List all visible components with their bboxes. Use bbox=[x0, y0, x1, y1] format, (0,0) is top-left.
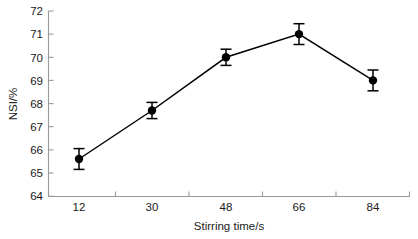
data-point-marker bbox=[295, 30, 303, 38]
y-tick-label: 72 bbox=[30, 5, 43, 17]
x-tick-label: 30 bbox=[146, 201, 159, 213]
x-tick-label: 84 bbox=[367, 201, 380, 213]
x-tick-label: 12 bbox=[73, 201, 86, 213]
y-tick-label: 68 bbox=[30, 98, 43, 110]
y-tick-marks bbox=[49, 11, 54, 196]
x-tick-labels: 12 30 48 66 84 bbox=[73, 201, 380, 213]
y-tick-label: 65 bbox=[30, 167, 43, 179]
y-axis-title: NSI/% bbox=[7, 88, 19, 121]
line-chart-canvas: 72 71 70 69 68 67 66 65 64 12 30 48 66 8… bbox=[0, 0, 418, 239]
data-point-marker bbox=[75, 155, 83, 163]
x-tick-label: 48 bbox=[220, 201, 233, 213]
y-tick-label: 69 bbox=[30, 75, 43, 87]
chart-figure: 72 71 70 69 68 67 66 65 64 12 30 48 66 8… bbox=[0, 0, 418, 239]
y-tick-label: 66 bbox=[30, 144, 43, 156]
y-tick-label: 71 bbox=[30, 28, 43, 40]
y-tick-label: 70 bbox=[30, 52, 43, 64]
data-point-marker bbox=[148, 106, 156, 114]
x-tick-marks bbox=[116, 192, 410, 197]
y-tick-label: 67 bbox=[30, 121, 43, 133]
data-point-marker bbox=[222, 53, 230, 61]
y-tick-label: 64 bbox=[30, 190, 43, 202]
x-axis-title: Stirring time/s bbox=[194, 220, 265, 232]
error-bars bbox=[74, 24, 379, 170]
x-tick-label: 66 bbox=[293, 201, 306, 213]
data-point-marker bbox=[369, 76, 377, 84]
y-tick-labels: 72 71 70 69 68 67 66 65 64 bbox=[30, 5, 43, 202]
